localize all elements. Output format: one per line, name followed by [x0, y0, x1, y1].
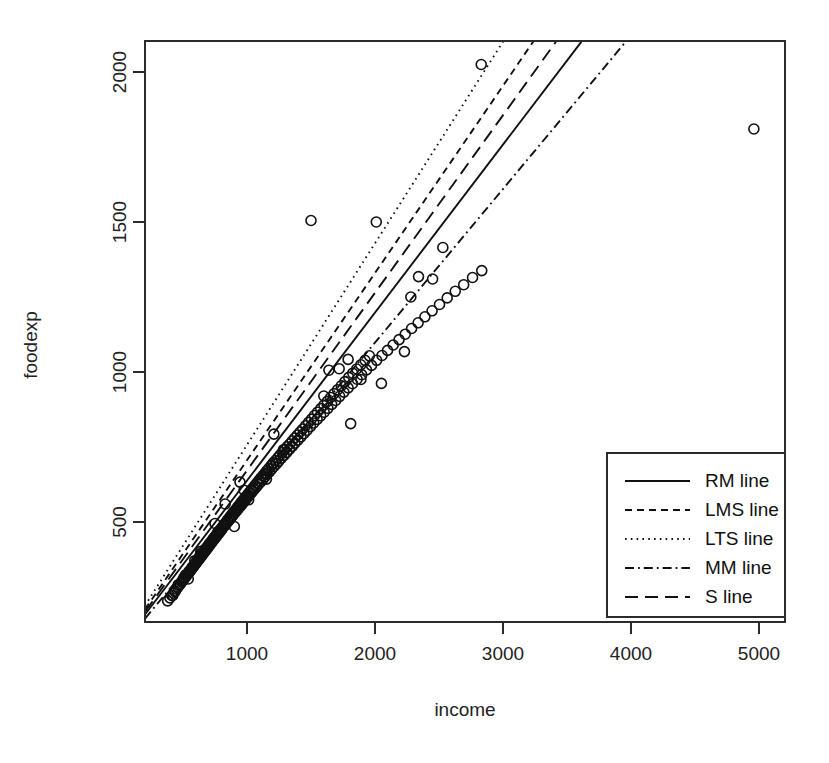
x-tick-label: 3000 [482, 643, 524, 664]
x-tick-label: 4000 [610, 643, 652, 664]
x-tick-label: 5000 [738, 643, 780, 664]
x-tick-label: 1000 [226, 643, 268, 664]
y-axis-title: foodexp [20, 311, 41, 379]
legend-label-mm-line: MM line [705, 557, 772, 578]
legend-label-s-line: S line [705, 586, 753, 607]
scatter-plot-svg: 10002000300040005000 500100015002000 inc… [0, 0, 829, 763]
x-tick-label: 2000 [354, 643, 396, 664]
legend-label-lts-line: LTS line [705, 528, 773, 549]
y-tick-label: 1500 [109, 201, 130, 243]
chart-container: 10002000300040005000 500100015002000 inc… [0, 0, 829, 763]
y-tick-label: 1000 [109, 351, 130, 393]
legend: RM lineLMS lineLTS lineMM lineS line [607, 453, 785, 617]
legend-label-lms-line: LMS line [705, 499, 779, 520]
x-axis-title: income [434, 699, 495, 720]
legend-label-rm-line: RM line [705, 470, 769, 491]
y-tick-label: 500 [109, 506, 130, 538]
y-tick-label: 2000 [109, 51, 130, 93]
